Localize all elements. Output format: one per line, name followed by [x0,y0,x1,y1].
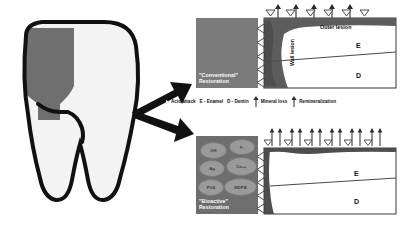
acid-attack-triangles-top [266,10,369,16]
legend: Acid attack E - Enamel D - Dentin Minera… [166,95,404,108]
bioactive-tooth-section [264,148,396,214]
pointer-arrows [130,78,200,150]
panel-conventional: "Conventional" Restoration [196,4,402,90]
bioactive-panel-svg [196,124,402,220]
legend-item-remineralization: Remineralization [291,96,336,107]
label-enamel-bioactive: E [354,170,359,177]
legend-label-enamel: E - Enamel [200,99,224,104]
legend-label-remineralization: Remineralization [299,99,336,104]
label-wall-lesion: Wall lesion [289,39,295,66]
label-dentin-bioactive: D [354,198,359,205]
mineral-loss-arrow-icon [253,96,259,107]
label-outer-lesion: Outer lesion [320,24,351,30]
legend-item-enamel: E - Enamel [200,99,224,104]
legend-item-mineral-loss: Mineral loss [253,96,288,107]
arrow-to-bioactive-panel [134,112,194,142]
acid-attack-triangles-interface-bioactive [257,152,264,213]
legend-item-acid-attack: Acid attack [166,99,196,104]
acid-attack-triangles-interface [257,24,264,87]
conventional-panel-svg [196,4,402,90]
panel-bioactive: OH F- Ag Ca++ PO4 MDPB "Bioactive" Resto… [196,124,402,220]
remineralization-arrow-icon [291,96,297,107]
legend-label-dentin: D - Dentin [227,99,249,104]
label-enamel-conventional: E [356,42,361,49]
legend-label-mineral-loss: Mineral loss [261,99,288,104]
figure-root: "Conventional" Restoration [0,0,406,225]
label-dentin-conventional: D [356,72,361,79]
legend-label-acid-attack: Acid attack [171,99,196,104]
legend-item-dentin: D - Dentin [227,99,249,104]
acid-attack-triangle-icon [166,100,169,104]
pointer-arrows-svg [130,78,200,150]
